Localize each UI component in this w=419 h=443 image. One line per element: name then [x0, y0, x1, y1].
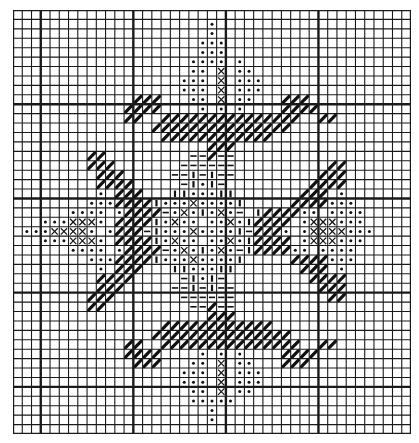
cross-stitch-chart [13, 10, 411, 434]
pattern-grid [13, 10, 411, 434]
